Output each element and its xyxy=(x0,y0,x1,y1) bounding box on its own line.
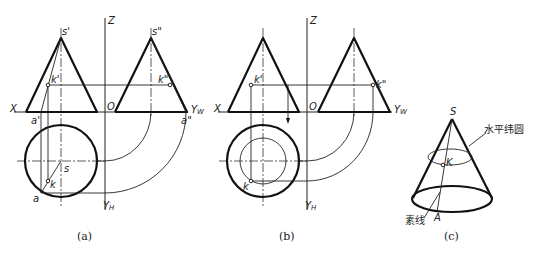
arrow-down-icon xyxy=(286,118,290,124)
point-k xyxy=(441,163,445,167)
cone-base-ellipse xyxy=(412,186,492,212)
point-k-front xyxy=(249,83,253,87)
label-yw: YW xyxy=(191,104,205,116)
caption-a: (a) xyxy=(77,230,92,243)
label-latitude-circle: 水平纬圆 xyxy=(484,123,524,135)
front-view-cone xyxy=(26,38,97,112)
label-k-top: k xyxy=(50,179,57,190)
label-k-side: k" xyxy=(376,79,386,90)
label-point-a: A xyxy=(433,212,441,223)
panel-a: Z X O YW YH s' s" k' k" a' a" s k a (a) xyxy=(9,15,205,243)
label-s-side: s" xyxy=(152,26,162,37)
label-o: O xyxy=(309,101,317,112)
label-z: Z xyxy=(107,15,116,26)
label-s-front: s' xyxy=(62,26,70,37)
label-yw: YW xyxy=(394,104,408,116)
label-k-side: k" xyxy=(158,74,168,85)
projection-arc-outer xyxy=(105,112,186,193)
label-a-side: a" xyxy=(181,115,192,126)
label-apex-s: S xyxy=(450,106,457,117)
panel-c: S K A 水平纬圆 素线 (c) xyxy=(405,106,524,243)
point-k-front xyxy=(46,83,50,87)
label-generatrix: 素线 xyxy=(405,214,425,226)
label-point-k: K xyxy=(446,157,454,168)
caption-c: (c) xyxy=(444,230,459,243)
point-k-side xyxy=(371,83,375,87)
side-generatrix-line xyxy=(151,38,186,112)
label-k-top: k xyxy=(243,181,250,192)
label-z: Z xyxy=(309,15,318,26)
label-yh: YH xyxy=(305,200,317,212)
label-k-front: k' xyxy=(51,74,60,85)
label-yh: YH xyxy=(103,200,115,212)
point-k-top xyxy=(249,179,253,183)
cone-projection-diagram: Z X O YW YH s' s" k' k" a' a" s k a (a) xyxy=(0,0,535,258)
caption-b: (b) xyxy=(279,230,295,243)
label-x: X xyxy=(213,103,222,114)
label-x: X xyxy=(9,103,18,114)
label-s-top: s xyxy=(64,163,69,174)
label-a-top: a xyxy=(33,193,39,204)
label-o: O xyxy=(107,101,115,112)
label-k-front: k' xyxy=(254,74,263,85)
panel-b: Z X O YW YH k' k" k (b) xyxy=(213,15,408,243)
label-a-front: a' xyxy=(31,115,40,126)
point-k-side xyxy=(168,83,172,87)
